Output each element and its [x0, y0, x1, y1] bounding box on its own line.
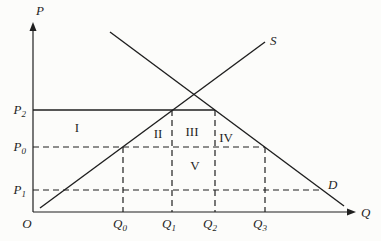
region-label-ii: II — [154, 126, 163, 141]
region-label-i: I — [75, 120, 79, 135]
demand-curve-label: D — [327, 177, 338, 192]
supply-curve-label: S — [270, 33, 277, 48]
region-label-iv: IV — [219, 130, 233, 145]
q-axis-label: Q — [361, 205, 371, 220]
diagram-background — [0, 0, 381, 241]
region-label-v: V — [190, 158, 200, 173]
diagram-canvas: P Q O S D P2 P0 P1 Q0 Q1 Q2 Q3 I II III … — [0, 0, 381, 241]
supply-demand-diagram: P Q O S D P2 P0 P1 Q0 Q1 Q2 Q3 I II III … — [0, 0, 381, 241]
region-label-iii: III — [186, 124, 199, 139]
origin-label: O — [22, 216, 32, 231]
p-axis-label: P — [35, 3, 44, 18]
